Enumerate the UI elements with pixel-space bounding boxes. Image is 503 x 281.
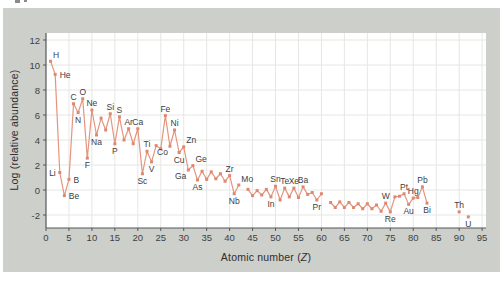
y-tick-label: 8 [35, 85, 40, 96]
data-point-Li [58, 171, 61, 174]
data-point-Ag [260, 194, 263, 197]
data-point-Sm [329, 201, 332, 204]
x-axis-title: Atomic number (Z) [221, 251, 311, 263]
data-point-Xe [292, 187, 295, 190]
element-label-Bi: Bi [423, 205, 431, 215]
data-point-S [118, 115, 121, 118]
element-label-In: In [267, 199, 274, 209]
data-point-Lu [370, 207, 373, 210]
element-label-Pb: Pb [417, 175, 428, 185]
data-point-Er [357, 202, 360, 205]
y-tick-label: 2 [35, 160, 40, 171]
element-label-Co: Co [157, 147, 168, 157]
element-label-P: P [112, 146, 118, 156]
x-tick-label: 60 [316, 232, 327, 243]
element-label-B: B [73, 175, 79, 185]
x-tick-label: 85 [431, 232, 442, 243]
data-point-Th [458, 210, 461, 213]
data-point-Pb [421, 185, 424, 188]
element-label-As: As [193, 182, 203, 192]
data-point-Al [104, 129, 107, 132]
data-point-Mg [100, 117, 103, 120]
data-point-Ga [187, 169, 190, 172]
x-tick-label: 40 [224, 232, 235, 243]
data-point-Se [201, 170, 204, 173]
element-label-Na: Na [91, 137, 102, 147]
x-tick-label: 20 [133, 232, 144, 243]
element-label-N: N [75, 115, 81, 125]
element-label-Ba: Ba [298, 175, 309, 185]
x-tick-label: 30 [178, 232, 189, 243]
element-label-W: W [382, 191, 390, 201]
element-label-Ca: Ca [132, 117, 143, 127]
element-label-Mo: Mo [241, 174, 253, 184]
data-point-La [306, 193, 309, 196]
data-point-Tm [361, 207, 364, 210]
data-point-H [49, 60, 52, 63]
data-point-Pt [403, 192, 406, 195]
element-label-Li: Li [49, 168, 56, 178]
data-point-Te [283, 187, 286, 190]
data-point-Rh [251, 194, 254, 197]
data-point-C [72, 102, 75, 105]
element-label-Th: Th [454, 200, 464, 210]
x-tick-label: 15 [110, 232, 121, 243]
element-label-Sc: Sc [137, 176, 148, 186]
element-label-Nb: Nb [229, 196, 240, 206]
x-tick-label: 0 [43, 232, 48, 243]
element-label-C: C [70, 92, 76, 102]
data-point-Tb [343, 206, 346, 209]
element-label-Ne: Ne [86, 98, 97, 108]
data-point-Dy [347, 201, 350, 204]
data-point-Os [393, 195, 396, 198]
data-point-Ar [127, 127, 130, 130]
element-label-O: O [79, 87, 86, 97]
data-point-Ho [352, 206, 355, 209]
element-label-Au: Au [403, 206, 414, 216]
data-point-Ni [173, 129, 176, 132]
x-tick-label: 75 [385, 232, 396, 243]
data-point-Rb [214, 177, 217, 180]
data-point-Sr [219, 172, 222, 175]
x-tick-label: 70 [362, 232, 373, 243]
x-tick-label: 55 [293, 232, 304, 243]
data-point-Cd [265, 188, 268, 191]
data-point-Zr [228, 174, 231, 177]
data-point-W [384, 202, 387, 205]
element-label-Fe: Fe [160, 104, 170, 114]
data-point-Sb [279, 199, 282, 202]
data-point-Yb [366, 202, 369, 205]
data-point-Hf [375, 204, 378, 207]
element-label-Ga: Ga [175, 171, 187, 181]
data-point-Hg [412, 197, 415, 200]
x-tick-label: 45 [247, 232, 258, 243]
element-label-S: S [117, 105, 123, 115]
element-label-Cu: Cu [174, 155, 185, 165]
data-point-Si [109, 112, 112, 115]
data-point-Cl [123, 139, 126, 142]
abundance-chart: 05101520253035404550556065707580859095-2… [0, 0, 503, 281]
element-label-Pr: Pr [313, 202, 322, 212]
data-point-Ce [311, 191, 314, 194]
data-point-Kr [210, 170, 213, 173]
y-tick-label: 0 [35, 185, 40, 196]
abundance-chart-canvas: 05101520253035404550556065707580859095-2… [0, 0, 503, 281]
x-tick-label: 80 [408, 232, 419, 243]
x-tick-label: 50 [270, 232, 281, 243]
data-point-Sn [274, 185, 277, 188]
y-tick-label: 6 [35, 110, 40, 121]
data-point-He [54, 73, 57, 76]
x-axis-title-suffix: ) [307, 251, 311, 263]
x-tick-label: 90 [454, 232, 465, 243]
x-axis-title-variable: Z [301, 251, 308, 263]
x-axis-title-prefix: Atomic number ( [221, 251, 301, 263]
element-label-F: F [85, 160, 90, 170]
element-label-H: H [53, 50, 59, 60]
data-point-Ta [380, 210, 383, 213]
data-point-Be [63, 194, 66, 197]
y-tick-label: -2 [32, 210, 40, 221]
data-point-Gd [338, 200, 341, 203]
x-tick-label: 5 [66, 232, 71, 243]
data-point-Ir [398, 195, 401, 198]
data-point-Pd [256, 189, 259, 192]
